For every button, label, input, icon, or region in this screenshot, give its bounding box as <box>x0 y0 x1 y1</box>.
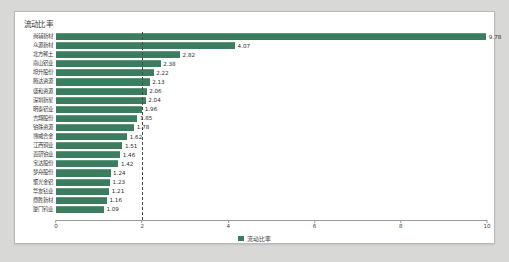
bar <box>56 115 137 122</box>
bar-track: 1.09 <box>56 205 496 214</box>
bar-value-label: 2.13 <box>150 79 165 85</box>
bar-category-label: 北方稀土 <box>15 50 56 59</box>
bar-row: 贵研铂业1.46 <box>15 150 496 159</box>
bar <box>56 188 109 195</box>
bar <box>56 133 127 140</box>
tick-label: 2 <box>140 223 144 229</box>
bar-track: 2.22 <box>56 68 496 77</box>
bar-track: 1.23 <box>56 178 496 187</box>
bar <box>56 88 147 95</box>
bar-value-label: 4.07 <box>235 43 250 49</box>
bar <box>56 179 110 186</box>
bar-track: 1.51 <box>56 141 496 150</box>
bar <box>56 124 134 131</box>
page-title: 流动比率 <box>24 18 53 29</box>
tick-label: 8 <box>399 223 403 229</box>
bar <box>56 142 122 149</box>
bar <box>56 60 161 67</box>
bar-track: 4.07 <box>56 41 496 50</box>
bar-track: 9.78 <box>56 32 496 41</box>
bar-row: 吉翔股份1.85 <box>15 114 496 123</box>
bar-value-label: 1.09 <box>104 206 119 212</box>
bar-row: 腾达资源2.13 <box>15 77 496 86</box>
x-axis-scale: 0246810 <box>56 220 487 234</box>
x-axis-line <box>56 220 487 221</box>
chart-card: 流动比率 尚辅新材9.78众源新材4.07北方稀土2.82南山铝业2.38坦升股… <box>14 11 495 244</box>
bar-row: 南山铝业2.38 <box>15 59 496 68</box>
bar <box>56 97 146 104</box>
bar <box>56 169 111 176</box>
legend-label: 流动比率 <box>247 234 271 243</box>
bar-value-label: 1.42 <box>118 161 133 167</box>
bar-row: 深圳新星2.04 <box>15 96 496 105</box>
bar-category-label: 厦门钨业 <box>15 205 56 214</box>
bar-category-label: 南山铝业 <box>15 59 56 68</box>
bar-track: 1.42 <box>56 159 496 168</box>
tick-label: 4 <box>227 223 231 229</box>
bar-row: 北方稀土2.82 <box>15 50 496 59</box>
x-axis-tick: 4 <box>227 220 231 229</box>
bar <box>56 151 120 158</box>
bar-value-label: 2.06 <box>147 88 162 94</box>
bar <box>56 160 118 167</box>
bar-row: 坦升股份2.22 <box>15 68 496 77</box>
bar-value-label: 1.96 <box>142 106 157 112</box>
bar-track: 2.38 <box>56 59 496 68</box>
bar-track: 1.46 <box>56 150 496 159</box>
bar-track: 1.78 <box>56 123 496 132</box>
legend-swatch-icon <box>238 236 244 242</box>
bar-category-label: 梦舟股份 <box>15 168 56 177</box>
bar-category-label: 深圳新星 <box>15 96 56 105</box>
legend: 流动比率 <box>15 234 494 243</box>
bar-value-label: 1.78 <box>134 124 149 130</box>
bar-track: 1.62 <box>56 132 496 141</box>
bar-row: 厦门钨业1.09 <box>15 205 496 214</box>
bar-row: 明泰铝业1.96 <box>15 105 496 114</box>
bar <box>56 197 107 204</box>
bar-category-label: 贵研铂业 <box>15 150 56 159</box>
bar-value-label: 1.16 <box>107 197 122 203</box>
bar <box>56 106 142 113</box>
bar-category-label: 华友钴业 <box>15 187 56 196</box>
bar <box>56 42 235 49</box>
tick-label: 0 <box>54 223 58 229</box>
bar-value-label: 2.38 <box>161 61 176 67</box>
bar-value-label: 1.23 <box>110 179 125 185</box>
bar-rows-container: 尚辅新材9.78众源新材4.07北方稀土2.82南山铝业2.38坦升股份2.22… <box>15 32 496 214</box>
bar-category-label: 鼎胜新材 <box>15 196 56 205</box>
bar-value-label: 2.22 <box>154 70 169 76</box>
x-axis-tick: 6 <box>313 220 317 229</box>
bar-row: 宝达股份1.42 <box>15 159 496 168</box>
bar-value-label: 1.21 <box>109 188 124 194</box>
bar-track: 2.13 <box>56 77 496 86</box>
bar-category-label: 腾达资源 <box>15 77 56 86</box>
bar-row: 梦舟股份1.24 <box>15 168 496 177</box>
bar-value-label: 1.24 <box>111 170 126 176</box>
x-axis-tick: 2 <box>140 220 144 229</box>
bar-track: 1.85 <box>56 114 496 123</box>
bar-category-label: 铂珠资源 <box>15 123 56 132</box>
bar-category-label: 江西铜业 <box>15 141 56 150</box>
bar-value-label: 1.85 <box>137 115 152 121</box>
bar-row: 铂珠资源1.78 <box>15 123 496 132</box>
bar-value-label: 1.46 <box>120 152 135 158</box>
bar-value-label: 1.51 <box>122 143 137 149</box>
x-axis-tick: 0 <box>54 220 58 229</box>
bar-category-label: 众源新材 <box>15 41 56 50</box>
bar-chart-plot-area: 尚辅新材9.78众源新材4.07北方稀土2.82南山铝业2.38坦升股份2.22… <box>15 32 496 220</box>
bar-row: 众源新材4.07 <box>15 41 496 50</box>
x-axis-tick: 10 <box>483 220 490 229</box>
bar-value-label: 2.04 <box>146 97 161 103</box>
bar-row: 鼎胜新材1.16 <box>15 196 496 205</box>
bar-category-label: 坦升股份 <box>15 68 56 77</box>
bar-track: 2.04 <box>56 96 496 105</box>
bar-category-label: 聚光金铝 <box>15 178 56 187</box>
bar-value-label: 9.78 <box>486 34 501 40</box>
bar-category-label: 博威合金 <box>15 132 56 141</box>
bar-row: 博威合金1.62 <box>15 132 496 141</box>
bar-row: 聚光金铝1.23 <box>15 178 496 187</box>
bar-value-label: 2.82 <box>180 52 195 58</box>
bar-row: 江西铜业1.51 <box>15 141 496 150</box>
axis-left-gutter <box>15 220 56 234</box>
bar-track: 1.96 <box>56 105 496 114</box>
